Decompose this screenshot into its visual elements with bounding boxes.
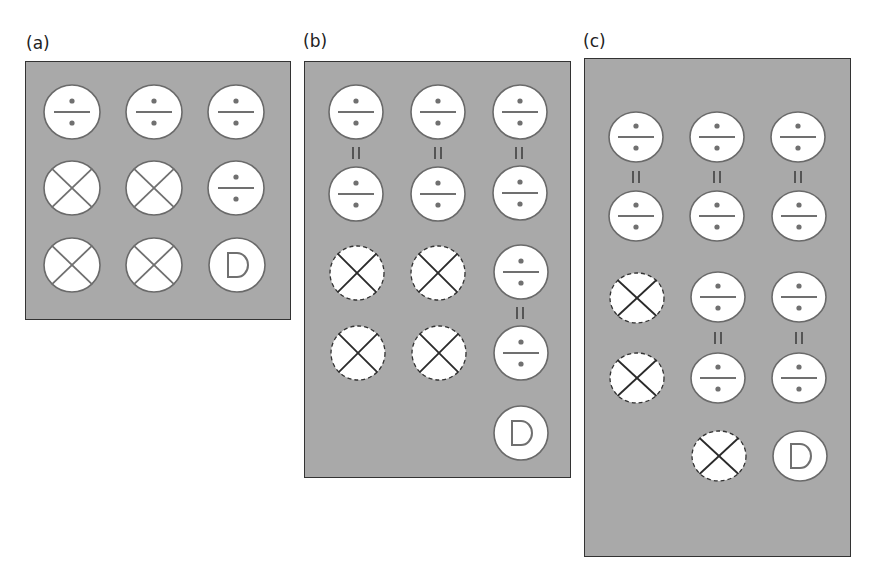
cross-token-icon	[44, 161, 100, 215]
divide-token-icon	[691, 272, 745, 322]
divide-token-icon	[690, 112, 744, 162]
equals-sign-icon	[516, 147, 522, 159]
cross-token-icon	[44, 238, 100, 292]
cross-token-icon	[126, 238, 182, 292]
equals-sign-icon	[633, 171, 639, 183]
equals-sign-icon	[796, 332, 802, 344]
equals-sign-icon	[715, 332, 721, 344]
divide-token-icon	[329, 85, 383, 139]
equals-sign-icon	[435, 147, 441, 159]
dashed-cross-token-icon	[610, 273, 664, 323]
divide-token-icon	[493, 166, 547, 220]
divide-token-icon	[494, 326, 548, 380]
dashed-cross-token-icon	[412, 326, 466, 380]
dashed-cross-token-icon	[692, 431, 746, 481]
divide-token-icon	[772, 272, 826, 322]
divide-token-icon	[771, 112, 825, 162]
divide-token-icon	[208, 161, 264, 215]
divide-token-icon	[411, 85, 465, 139]
divide-token-icon	[208, 85, 264, 139]
dashed-cross-token-icon	[610, 353, 664, 403]
divide-token-icon	[126, 85, 182, 139]
divide-token-icon	[494, 245, 548, 299]
dashed-cross-token-icon	[411, 246, 465, 300]
equals-sign-icon	[353, 147, 359, 159]
divide-token-icon	[44, 85, 100, 139]
divide-token-icon	[329, 167, 383, 221]
cross-token-icon	[126, 161, 182, 215]
dashed-cross-token-icon	[331, 326, 385, 380]
divide-token-icon	[772, 191, 826, 241]
dashed-cross-token-icon	[330, 246, 384, 300]
equals-sign-icon	[795, 171, 801, 183]
divide-token-icon	[772, 353, 826, 403]
divide-token-icon	[609, 112, 663, 162]
d-token-icon	[209, 238, 265, 292]
divide-token-icon	[493, 85, 547, 139]
d-token-icon	[494, 406, 548, 460]
d-token-icon	[773, 431, 827, 481]
divide-token-icon	[411, 167, 465, 221]
token-layer	[0, 0, 870, 583]
equals-sign-icon	[517, 307, 523, 319]
equals-sign-icon	[714, 171, 720, 183]
divide-token-icon	[691, 353, 745, 403]
divide-token-icon	[690, 191, 744, 241]
divide-token-icon	[609, 191, 663, 241]
